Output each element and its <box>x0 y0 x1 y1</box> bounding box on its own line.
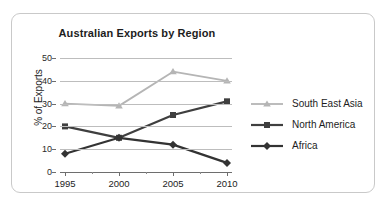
x-minor-tick-mark <box>146 172 147 174</box>
x-tick-label: 2010 <box>207 178 247 189</box>
series-layer <box>60 58 232 172</box>
y-tick-label: 30 <box>26 100 52 109</box>
plot-area <box>60 58 232 172</box>
series-south-east-asia <box>61 68 231 108</box>
y-tick-mark <box>52 81 56 82</box>
legend-item-africa[interactable]: Africa <box>250 136 372 157</box>
y-tick-label: 20 <box>26 122 52 131</box>
gridline <box>60 104 232 105</box>
y-tick-mark <box>52 58 56 59</box>
data-point-marker <box>170 112 176 118</box>
legend-label: North America <box>292 118 355 131</box>
data-point-marker <box>61 150 69 158</box>
data-point-marker <box>264 122 270 128</box>
x-tick-mark <box>65 172 66 176</box>
y-tick-mark <box>52 149 56 150</box>
y-axis-tick-labels: 50403020100 <box>26 58 56 172</box>
chart-card: Australian Exports by Region % of Export… <box>11 13 375 193</box>
legend-marker-square-icon <box>250 118 284 132</box>
x-minor-tick-mark <box>92 172 93 174</box>
y-tick-mark <box>52 126 56 127</box>
y-tick-label: 0 <box>26 168 52 177</box>
gridline <box>60 149 232 150</box>
legend-marker-triangle-icon <box>250 97 284 111</box>
x-axis-tick-labels: 1995200020052010 <box>60 172 232 192</box>
y-tick-mark <box>52 172 56 173</box>
gridline <box>60 126 232 127</box>
data-point-marker <box>169 141 177 149</box>
gridline <box>60 81 232 82</box>
legend-item-north-america[interactable]: North America <box>250 115 372 136</box>
x-tick-mark <box>119 172 120 176</box>
data-point-marker <box>223 159 231 167</box>
series-africa <box>61 134 231 167</box>
y-tick-label: 10 <box>26 145 52 154</box>
x-tick-mark <box>227 172 228 176</box>
x-tick-label: 1995 <box>45 178 85 189</box>
x-tick-label: 2000 <box>99 178 139 189</box>
legend-item-south-east-asia[interactable]: South East Asia <box>250 94 372 115</box>
data-point-marker <box>263 142 271 150</box>
x-tick-label: 2005 <box>153 178 193 189</box>
y-tick-label: 50 <box>26 54 52 63</box>
x-minor-tick-mark <box>200 172 201 174</box>
y-tick-mark <box>52 104 56 105</box>
series-line <box>65 101 227 137</box>
gridline <box>60 58 232 59</box>
legend-label: Africa <box>292 139 318 152</box>
chart-title: Australian Exports by Region <box>12 27 262 39</box>
y-tick-label: 40 <box>26 77 52 86</box>
data-point-marker <box>169 68 177 74</box>
x-tick-mark <box>173 172 174 176</box>
legend-label: South East Asia <box>292 97 363 110</box>
chart-legend: South East AsiaNorth AmericaAfrica <box>250 94 372 157</box>
series-line <box>65 72 227 106</box>
legend-marker-diamond-icon <box>250 139 284 153</box>
series-line <box>65 138 227 163</box>
